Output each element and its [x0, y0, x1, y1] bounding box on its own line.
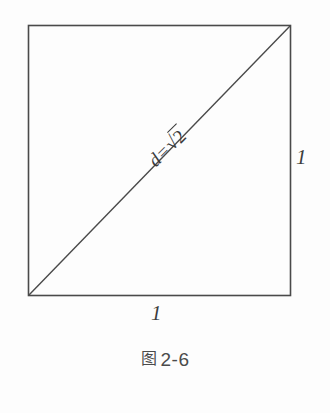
figure-container: 1 1 d=√2 图2-6	[0, 0, 330, 413]
side-length-label-bottom: 1	[151, 303, 162, 324]
figure-number: 2-6	[161, 349, 190, 371]
side-length-label-right: 1	[296, 147, 307, 168]
figure-cjk-character-icon: 图	[141, 350, 157, 368]
figure-caption: 图2-6	[0, 349, 330, 371]
